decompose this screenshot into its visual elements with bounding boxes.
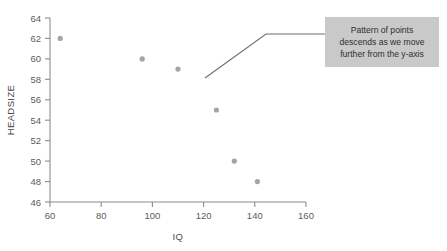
chart-figure: 64 62 60 58 56 54 52 50 48 46 60 80 100 … (0, 0, 447, 251)
annotation-leader-line (205, 34, 325, 78)
annotation-line-2: descends as we move (339, 37, 424, 47)
y-tick-label-60: 60 (30, 53, 41, 64)
y-tick-label-54: 54 (30, 115, 41, 126)
y-tick-label-50: 50 (30, 156, 41, 167)
y-axis-title: HEADSIZE (5, 85, 16, 136)
x-tick-label-140: 140 (247, 210, 263, 221)
x-tick-label-120: 120 (196, 210, 212, 221)
y-tick-label-58: 58 (30, 74, 41, 85)
x-tick-label-60: 60 (45, 210, 56, 221)
data-point (140, 56, 145, 61)
data-point (232, 159, 237, 164)
y-tick-label-56: 56 (30, 94, 41, 105)
y-tick-label-48: 48 (30, 176, 41, 187)
x-axis-title: IQ (173, 231, 184, 242)
data-point (214, 107, 219, 112)
data-point (255, 179, 260, 184)
annotation-line-1: Pattern of points (351, 25, 414, 35)
x-tick-label-80: 80 (96, 210, 107, 221)
y-tick-label-46: 46 (30, 197, 41, 208)
y-tick-label-52: 52 (30, 135, 41, 146)
data-point (175, 67, 180, 72)
annotation-line-3: further from the y-axis (340, 49, 424, 59)
x-axis-ticks (50, 202, 306, 207)
x-tick-label-100: 100 (144, 210, 160, 221)
y-tick-label-62: 62 (30, 33, 41, 44)
y-axis-ticks (45, 18, 50, 202)
y-tick-label-64: 64 (30, 13, 41, 24)
data-point-series (58, 36, 260, 184)
data-point (58, 36, 63, 41)
x-tick-label-160: 160 (298, 210, 314, 221)
annotation-callout-text: Pattern of points descends as we move fu… (334, 24, 429, 61)
annotation-callout-box: Pattern of points descends as we move fu… (325, 17, 439, 67)
